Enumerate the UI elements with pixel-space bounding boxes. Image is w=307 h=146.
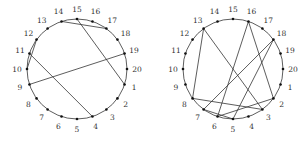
node-12 [191,38,194,41]
chord-13-8 [193,29,204,99]
node-label-16: 16 [247,7,257,16]
node-label-15: 15 [72,5,82,14]
chord-14-17 [62,21,107,28]
node-label-12: 12 [180,29,190,38]
node-11 [184,52,187,55]
node-4 [247,115,250,118]
node-label-6: 6 [212,122,217,131]
node-20 [282,68,285,71]
node-13 [202,27,205,30]
node-13 [46,27,49,30]
node-label-2: 2 [279,100,284,109]
node-2 [272,97,275,100]
node-label-11: 11 [171,46,181,55]
node-10 [182,68,185,71]
chord-18-7 [204,40,274,110]
node-label-19: 19 [129,46,139,55]
node-label-11: 11 [15,46,25,55]
node-label-7: 7 [195,113,200,122]
node-label-9: 9 [174,83,179,92]
node-6 [60,115,63,118]
node-label-9: 9 [18,83,23,92]
node-19 [123,52,126,55]
node-3 [105,108,108,111]
node-19 [279,52,282,55]
node-17 [261,27,264,30]
node-1 [123,83,126,86]
node-label-12: 12 [24,29,34,38]
node-label-13: 13 [193,16,203,25]
node-label-13: 13 [37,16,47,25]
node-label-18: 18 [277,29,287,38]
node-1 [279,83,282,86]
chord-diagrams: 1234567891011121314151617181920123456789… [0,0,307,146]
node-9 [28,83,31,86]
node-label-17: 17 [107,16,117,25]
node-label-19: 19 [285,46,295,55]
node-6 [216,115,219,118]
node-20 [126,68,129,71]
node-label-15: 15 [228,5,238,14]
node-18 [116,38,119,41]
node-5 [76,118,79,121]
node-16 [91,20,94,23]
node-14 [60,20,63,23]
chord-16-2 [248,21,273,98]
node-15 [232,18,235,21]
node-label-4: 4 [93,122,98,131]
chord-19-9 [29,54,124,85]
node-label-10: 10 [168,65,178,74]
node-label-6: 6 [56,122,61,131]
node-14 [216,20,219,23]
chord-11-4 [29,54,92,117]
node-label-7: 7 [39,113,44,122]
node-label-16: 16 [91,7,101,16]
node-17 [105,27,108,30]
node-7 [46,108,49,111]
node-label-5: 5 [231,125,236,134]
node-2 [116,97,119,100]
node-3 [261,108,264,111]
node-9 [184,83,187,86]
node-label-8: 8 [26,100,31,109]
node-label-10: 10 [12,65,22,74]
left-chord-diagram: 1234567891011121314151617181920 [12,5,142,134]
node-label-3: 3 [110,113,115,122]
node-label-14: 14 [54,7,64,16]
chord-15-1 [77,19,125,84]
node-15 [76,18,79,21]
node-8 [191,97,194,100]
node-11 [28,52,31,55]
node-8 [35,97,38,100]
node-18 [272,38,275,41]
node-label-20: 20 [288,65,298,74]
node-7 [202,108,205,111]
node-12 [35,38,38,41]
node-label-4: 4 [249,122,254,131]
node-label-1: 1 [288,83,293,92]
node-label-2: 2 [123,100,128,109]
node-label-3: 3 [266,113,271,122]
right-chord-diagram: 1234567891011121314151617181920 [168,5,298,134]
node-5 [232,118,235,121]
node-label-14: 14 [210,7,220,16]
node-16 [247,20,250,23]
node-10 [26,68,29,71]
node-label-1: 1 [132,83,137,92]
node-label-5: 5 [75,125,80,134]
node-label-8: 8 [182,100,187,109]
node-4 [91,115,94,118]
chord-8-3 [193,98,263,109]
node-label-18: 18 [121,29,131,38]
node-label-20: 20 [132,65,142,74]
node-label-17: 17 [263,16,273,25]
